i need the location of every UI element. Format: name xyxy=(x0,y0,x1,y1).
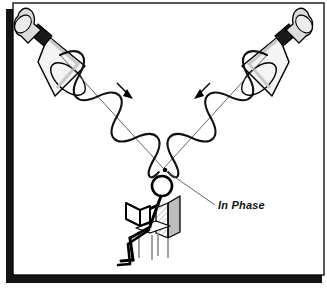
figure-root: In Phase xyxy=(0,0,327,288)
in-phase-label: In Phase xyxy=(218,199,265,211)
listener-foot-second xyxy=(118,264,130,265)
listener-head xyxy=(152,176,172,196)
listener-foot xyxy=(121,260,133,261)
wave-interference-diagram: In Phase xyxy=(0,0,327,288)
chair-backrest-side xyxy=(168,196,180,238)
open-book-right-page xyxy=(140,206,150,226)
